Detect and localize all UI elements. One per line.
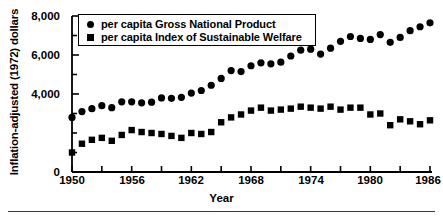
data-point xyxy=(208,129,214,135)
data-point xyxy=(238,111,244,117)
data-point xyxy=(128,127,134,133)
legend-entry-gnp: per capita Gross National Product xyxy=(87,17,276,31)
data-point xyxy=(357,104,363,110)
data-point xyxy=(357,35,364,42)
data-point xyxy=(148,130,154,136)
data-point xyxy=(89,137,95,143)
data-point xyxy=(377,31,384,38)
data-point xyxy=(148,99,155,106)
data-point xyxy=(168,133,174,139)
data-point xyxy=(78,108,85,115)
data-point xyxy=(88,105,95,112)
data-point xyxy=(288,105,294,111)
data-point xyxy=(327,45,334,52)
data-point xyxy=(119,132,125,138)
data-point xyxy=(258,104,264,110)
chart-legend: per capita Gross National Product per ca… xyxy=(78,14,316,46)
data-point xyxy=(257,59,264,66)
data-point xyxy=(337,38,344,45)
data-point xyxy=(407,27,414,34)
data-point xyxy=(297,47,304,54)
data-point xyxy=(168,95,175,102)
data-point xyxy=(247,62,254,69)
data-point xyxy=(158,131,164,137)
data-point xyxy=(367,36,374,43)
data-point xyxy=(248,107,254,113)
data-point xyxy=(138,129,144,135)
data-point xyxy=(79,141,85,147)
data-point xyxy=(267,60,274,67)
data-point xyxy=(327,103,333,109)
data-point xyxy=(397,34,404,41)
data-point xyxy=(228,67,235,74)
data-point xyxy=(397,116,403,122)
data-point xyxy=(109,138,115,144)
data-point xyxy=(307,46,314,53)
data-point xyxy=(347,33,354,40)
data-point xyxy=(278,106,284,112)
square-marker-icon xyxy=(87,34,94,41)
data-point xyxy=(287,52,294,59)
series-isew-points xyxy=(69,103,433,155)
footer-divider xyxy=(8,211,435,212)
data-point xyxy=(427,117,433,123)
data-point xyxy=(118,98,125,105)
data-point xyxy=(407,118,413,124)
data-point xyxy=(68,114,75,121)
data-point xyxy=(98,102,105,109)
data-point xyxy=(237,68,244,75)
data-point xyxy=(158,94,165,101)
data-point xyxy=(367,111,373,117)
data-point xyxy=(387,39,394,46)
data-point xyxy=(198,87,205,94)
legend-label-isew: per capita Index of Sustainable Welfare xyxy=(101,31,302,43)
data-point xyxy=(347,104,353,110)
data-point xyxy=(99,135,105,141)
legend-label-gnp: per capita Gross National Product xyxy=(101,18,276,30)
data-point xyxy=(108,104,115,111)
chart-figure: Inflation-adjusted (1972) dollars 8,000 … xyxy=(0,0,443,219)
data-point xyxy=(317,105,323,111)
data-point xyxy=(277,59,284,66)
data-point xyxy=(228,114,234,120)
data-point xyxy=(178,135,184,141)
data-point xyxy=(198,131,204,137)
data-point xyxy=(138,99,145,106)
data-point xyxy=(417,121,423,127)
data-point xyxy=(337,106,343,112)
legend-entry-isew: per capita Index of Sustainable Welfare xyxy=(87,30,302,44)
data-point xyxy=(307,104,313,110)
data-point xyxy=(128,98,135,105)
data-point xyxy=(268,107,274,113)
data-point xyxy=(426,19,433,26)
data-point xyxy=(416,23,423,30)
data-point xyxy=(208,82,215,89)
data-point xyxy=(69,149,75,155)
data-point xyxy=(387,122,393,128)
circle-marker-icon xyxy=(87,21,94,28)
data-point xyxy=(188,89,195,96)
data-point xyxy=(218,119,224,125)
data-point xyxy=(377,110,383,116)
data-point xyxy=(218,75,225,82)
data-point xyxy=(178,94,185,101)
data-point xyxy=(188,130,194,136)
data-point xyxy=(317,50,324,57)
data-point xyxy=(298,103,304,109)
x-axis-title: Year xyxy=(0,192,443,204)
